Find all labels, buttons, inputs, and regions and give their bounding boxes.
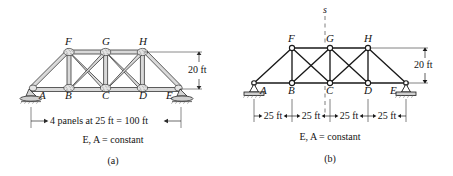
support-b-right bbox=[395, 84, 416, 98]
node-label-b-G: G bbox=[326, 32, 334, 44]
panel-b-span-label-1: 25 ft bbox=[264, 110, 283, 121]
truss-figure: A B C D E F G H 20 ft 4 pane bbox=[0, 0, 453, 176]
node-label-b-F: F bbox=[287, 32, 295, 44]
node-label-a-H: H bbox=[138, 35, 148, 47]
node-label-a-F: F bbox=[64, 35, 72, 47]
member-b-diagonal-HE bbox=[368, 48, 406, 83]
panel-b-height-label: 20 ft bbox=[414, 59, 433, 70]
member-a-diagonal-AF bbox=[31, 49, 71, 89]
panel-a-height-label: 20 ft bbox=[188, 64, 207, 75]
node-label-a-D: D bbox=[138, 89, 147, 101]
panel-b-members bbox=[254, 48, 406, 83]
node-label-a-C: C bbox=[102, 89, 110, 101]
panel-a-note: E, A = constant bbox=[82, 134, 143, 145]
panel-b-node-labels: A B C D E F G H bbox=[259, 32, 397, 96]
panel-b-span-label-4: 25 ft bbox=[378, 110, 397, 121]
panel-b-axis-label: s bbox=[323, 4, 327, 15]
member-a-vertical-DH bbox=[140, 52, 144, 90]
joint-b-F bbox=[289, 45, 294, 50]
joint-b-G bbox=[327, 45, 332, 50]
panel-b-span-label-3: 25 ft bbox=[340, 110, 359, 121]
member-b-diagonal-AF bbox=[254, 48, 292, 83]
panel-b-span-label-2: 25 ft bbox=[302, 110, 321, 121]
joint-F bbox=[64, 48, 74, 55]
member-a-vertical-BF bbox=[67, 52, 71, 90]
node-label-a-E: E bbox=[165, 89, 173, 101]
joint-G bbox=[100, 48, 110, 55]
panel-a-diagram: A B C D E F G H 20 ft 4 pane bbox=[0, 0, 226, 176]
node-label-b-E: E bbox=[389, 84, 397, 96]
node-label-b-C: C bbox=[326, 84, 334, 96]
node-label-a-A: A bbox=[38, 89, 46, 101]
panel-b-diagram: s bbox=[226, 0, 453, 176]
panel-a-caption: (a) bbox=[107, 155, 118, 167]
node-label-b-A: A bbox=[259, 84, 267, 96]
node-label-a-G: G bbox=[102, 35, 110, 47]
node-label-b-D: D bbox=[363, 84, 372, 96]
node-label-b-H: H bbox=[363, 32, 373, 44]
member-a-diagonal-HE bbox=[142, 49, 181, 89]
node-label-b-B: B bbox=[288, 84, 295, 96]
panel-a-span-label: 4 panels at 25 ft = 100 ft bbox=[50, 115, 148, 126]
panel-b-caption: (b) bbox=[324, 153, 336, 165]
node-label-a-B: B bbox=[65, 89, 72, 101]
panel-b-note: E, A = constant bbox=[299, 131, 360, 142]
member-a-vertical-CG bbox=[104, 52, 108, 90]
